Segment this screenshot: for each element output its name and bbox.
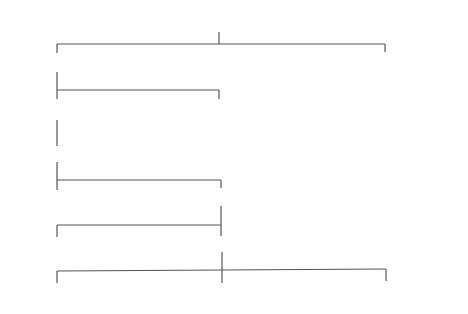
tree-lines (0, 0, 468, 314)
